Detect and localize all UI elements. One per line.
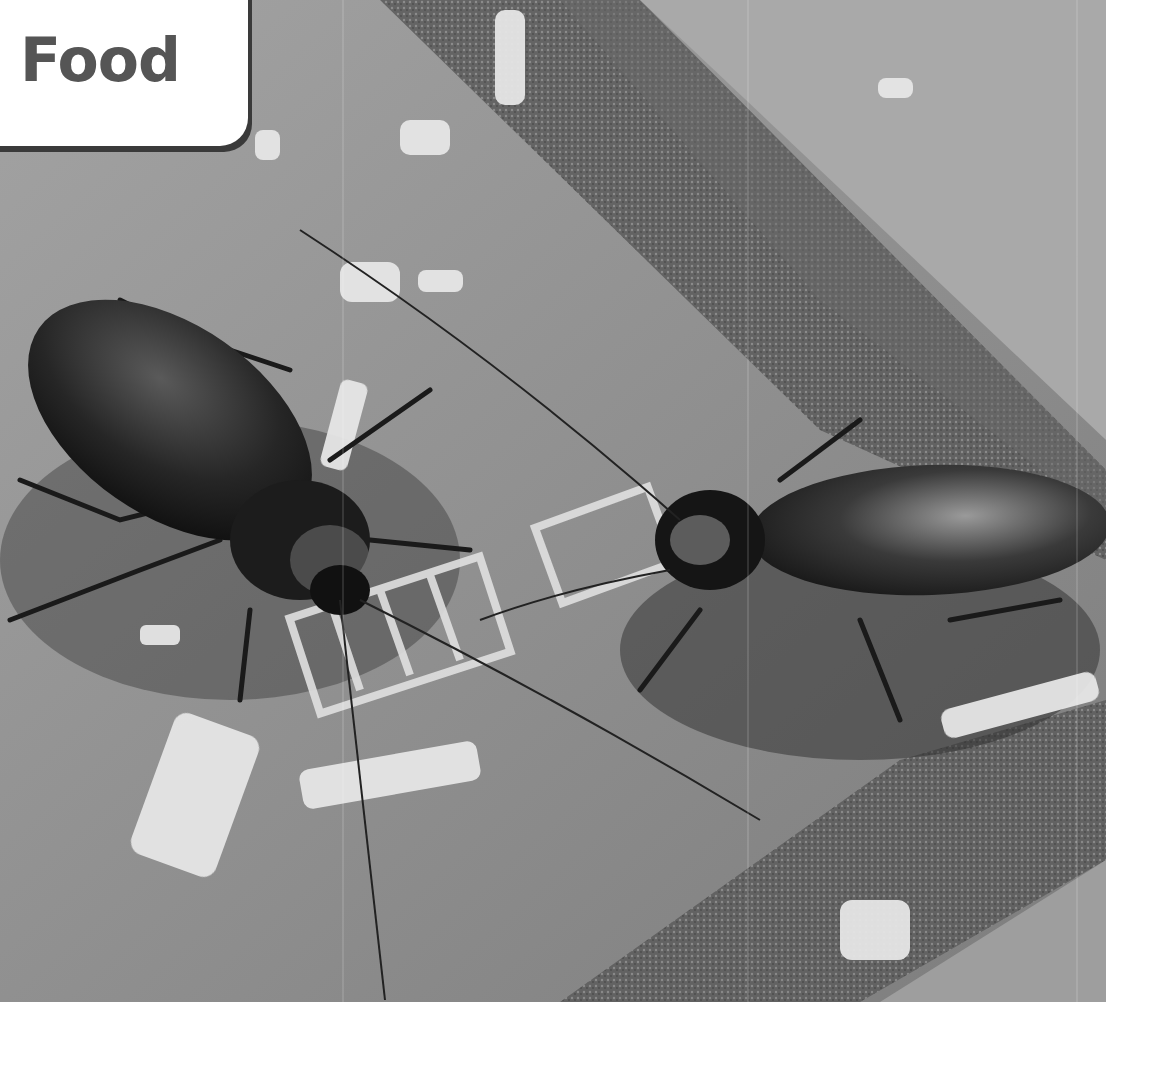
category-label-card: Food	[0, 0, 248, 146]
cockroach-photo: Food	[0, 0, 1106, 1002]
photo-scene	[0, 0, 1106, 1002]
category-label: Food	[20, 30, 180, 90]
